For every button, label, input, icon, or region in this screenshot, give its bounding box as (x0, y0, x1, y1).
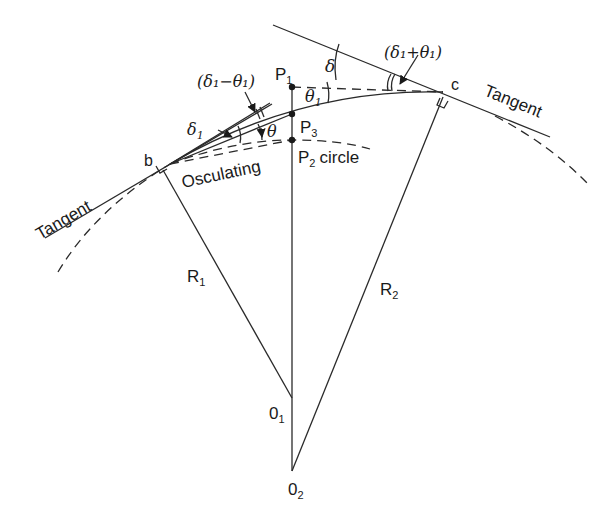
label-point-c: c (451, 76, 459, 93)
radius-r2 (292, 97, 443, 471)
label-theta: θ (267, 122, 277, 141)
radius-r1 (163, 170, 292, 398)
label-osculating: Osculating (180, 157, 263, 192)
label-o2: 02 (288, 480, 304, 501)
label-delta1: δ1 (187, 120, 204, 142)
leader-delta1-minus-theta1 (245, 92, 255, 112)
angle-arc-delta1-plus-theta1 (387, 74, 391, 91)
label-theta1: θ1 (305, 87, 322, 109)
label-point-b: b (144, 152, 153, 169)
angle-arc-delta (335, 44, 339, 80)
angle-arc-delta1-plus-theta1-b (391, 74, 395, 91)
label-delta1-plus-theta1: (δ₁+θ₁) (384, 43, 442, 62)
label-tangent-right: Tangent (482, 81, 545, 121)
label-p3: P3 (300, 118, 317, 139)
label-o1: 01 (269, 404, 285, 425)
label-delta1-minus-theta1: (δ₁−θ₁) (197, 72, 255, 91)
ray-delta1 (170, 103, 270, 164)
diagram-svg: Tangent Tangent Osculating b c P1 P3 P2c… (0, 0, 606, 523)
diagram-canvas: Tangent Tangent Osculating b c P1 P3 P2c… (0, 0, 606, 523)
tangent-line-right (273, 25, 550, 137)
label-p1: P1 (275, 65, 292, 86)
angle-arc-theta1 (327, 82, 329, 103)
label-delta: δ (325, 56, 335, 76)
dashed-curve-right (495, 116, 587, 183)
chord-b-p2 (170, 140, 292, 164)
chord-p1-c (292, 87, 443, 92)
point-p3 (289, 111, 295, 117)
point-p2 (289, 137, 295, 143)
label-r2: R2 (380, 280, 398, 301)
label-p2-circle: P2circle (298, 148, 359, 169)
label-r1: R1 (187, 267, 205, 288)
label-tangent-left: Tangent (33, 197, 95, 244)
